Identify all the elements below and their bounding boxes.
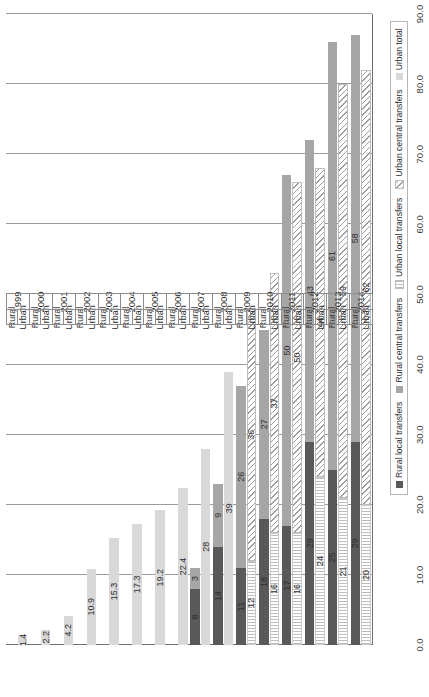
axis-separator xyxy=(178,310,179,325)
bar-value-label: 27 xyxy=(259,419,269,429)
gridline xyxy=(6,83,372,84)
legend-label: Urban central transfers xyxy=(394,89,404,176)
legend-item: Rural central transfers xyxy=(394,298,404,393)
year-label: 2014 xyxy=(349,294,372,310)
axis-separator xyxy=(6,309,372,310)
legend-swatch-rural-local xyxy=(396,481,403,488)
axis-separator xyxy=(86,310,87,325)
year-label: 2006 xyxy=(166,294,189,310)
bar-value-label: 39 xyxy=(224,503,234,513)
axis-separator xyxy=(315,310,316,325)
bar-value-label: 10.9 xyxy=(86,598,96,616)
axis-tick-label: 10.0 xyxy=(414,555,425,595)
bar-value-label: 9 xyxy=(213,513,223,518)
bar-value-label: 29 xyxy=(350,538,360,548)
bar-value-label: 20 xyxy=(361,570,371,580)
axis-separator xyxy=(17,310,18,325)
axis-separator xyxy=(292,310,293,325)
axis-separator xyxy=(338,310,339,325)
axis-separator xyxy=(63,310,64,325)
plot-area: 1.42.24.210.915.317.319.222.483281493911… xyxy=(0,0,429,697)
axis-separator xyxy=(132,310,133,325)
bar-value-label: 25 xyxy=(327,552,337,562)
year-label: 2000 xyxy=(29,294,52,310)
legend-label: Urban total xyxy=(394,28,404,70)
year-label: 2001 xyxy=(52,294,75,310)
category-label-urban: Urban xyxy=(292,310,303,325)
bar-value-label: 36 xyxy=(246,430,256,440)
axis-separator xyxy=(361,310,362,325)
legend-swatch-rural-central xyxy=(396,386,403,393)
gridline xyxy=(6,153,372,154)
axis-separator xyxy=(223,310,224,325)
legend-item: Urban total xyxy=(394,28,404,80)
axis-tick-label: 80.0 xyxy=(414,64,425,104)
year-label: 2005 xyxy=(143,294,166,310)
bar-value-label: 26 xyxy=(236,472,246,482)
legend-label: Rural local transfers xyxy=(394,402,404,478)
legend-item: Rural local transfers xyxy=(394,402,404,488)
bar-value-label: 50 xyxy=(292,353,302,363)
year-label: 2012 xyxy=(303,294,326,310)
axis-separator xyxy=(155,310,156,325)
bar-value-label: 24 xyxy=(315,556,325,566)
bar-value-label: 58 xyxy=(350,233,360,243)
bar-value-label: 2.2 xyxy=(41,631,51,644)
bar-value-label: 12 xyxy=(246,598,256,608)
bar-value-label: 4.2 xyxy=(63,624,73,637)
bar-value-label: 28 xyxy=(201,542,211,552)
bar-value-label: 17.3 xyxy=(132,576,142,594)
year-label: 2011 xyxy=(281,294,304,310)
year-label: 2003 xyxy=(98,294,121,310)
axis-separator xyxy=(6,324,372,325)
year-label: 2008 xyxy=(212,294,235,310)
category-label-rural: Rural xyxy=(281,310,292,325)
gridline xyxy=(6,13,372,14)
legend-item: Urban local transfers xyxy=(394,198,404,289)
year-label: 2004 xyxy=(120,294,143,310)
axis-tick-label: 70.0 xyxy=(414,134,425,174)
legend-item: Urban central transfers xyxy=(394,89,404,188)
chart-legend: Rural local transfersRural central trans… xyxy=(390,21,408,495)
axis-separator xyxy=(372,294,373,325)
axis-separator xyxy=(6,293,372,294)
bar-value-label: 3 xyxy=(190,576,200,581)
year-label: 2013 xyxy=(326,294,349,310)
year-label: 2009 xyxy=(235,294,258,310)
bar-value-label: 19.2 xyxy=(155,569,165,587)
bar-value-label: 1.4 xyxy=(18,634,28,647)
axis-tick-label: 60.0 xyxy=(414,204,425,244)
bar-value-label: 18 xyxy=(259,577,269,587)
bar-value-label: 16 xyxy=(269,584,279,594)
axis-separator xyxy=(40,310,41,325)
axis-separator xyxy=(269,310,270,325)
axis-baseline xyxy=(372,14,373,645)
bar-value-label: 21 xyxy=(338,566,348,576)
axis-tick-label: 30.0 xyxy=(414,415,425,455)
axis-separator xyxy=(246,310,247,325)
legend-label: Urban local transfers xyxy=(394,198,404,277)
axis-tick-label: 50.0 xyxy=(414,274,425,314)
bar-value-label: 22.4 xyxy=(178,558,188,576)
axis-separator xyxy=(200,310,201,325)
bar-value-label: 50 xyxy=(282,346,292,356)
axis-tick-label: 40.0 xyxy=(414,345,425,385)
bar-value-label: 37 xyxy=(269,398,279,408)
year-label: 1999 xyxy=(6,294,29,310)
legend-swatch-urban-total xyxy=(396,73,403,80)
year-label: 2010 xyxy=(258,294,281,310)
legend-swatch-urban-local xyxy=(395,280,404,289)
bar-value-label: 15.3 xyxy=(109,583,119,601)
axis-tick-label: 20.0 xyxy=(414,485,425,525)
bar-value-label: 16 xyxy=(292,584,302,594)
bar-value-label: 29 xyxy=(305,538,315,548)
axis-tick-label: 0.0 xyxy=(414,625,425,665)
chart-canvas: 1.42.24.210.915.317.319.222.483281493911… xyxy=(0,0,429,697)
axis-separator xyxy=(109,310,110,325)
year-label: 2002 xyxy=(75,294,98,310)
bar-value-label: 11 xyxy=(236,602,246,611)
bar-value-label: 8 xyxy=(190,614,200,619)
bar-value-label: 14 xyxy=(213,591,223,601)
year-label: 2007 xyxy=(189,294,212,310)
bar-value-label: 61 xyxy=(327,251,337,261)
